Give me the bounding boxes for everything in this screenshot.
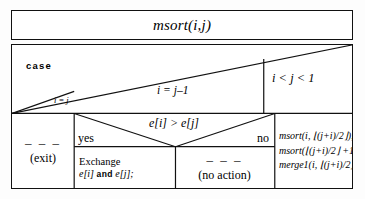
exchange-statement-line2: e[i] and e[j]; bbox=[79, 168, 175, 181]
page-title: msort(i,j) bbox=[153, 17, 211, 34]
exit-label: (exit) bbox=[30, 152, 56, 166]
structogram-body: case i = j i = j–1 i < j < 1 – – – (exit… bbox=[11, 44, 353, 189]
exchange-operand-right: e[j]; bbox=[115, 168, 133, 179]
no-action-dashes: – – – bbox=[207, 153, 243, 166]
branch-body-recursive-calls: msort(i, ⌊(j+i)/2⌋); msort(⌊(j+i)/2⌋ +1,… bbox=[274, 114, 352, 188]
code-line-merge1: merge1(i, ⌊(j+i)/2⌋, j); bbox=[279, 158, 352, 173]
decision-condition-label: e[i] > e[j] bbox=[74, 116, 274, 131]
exit-dashes: – – – bbox=[25, 136, 61, 149]
exchange-operand-left: e[i] bbox=[79, 168, 94, 179]
structogram-figure: msort(i,j) case i = j i = j–1 i bbox=[0, 0, 365, 199]
branch-body-no-action: – – – (no action) bbox=[175, 147, 274, 188]
code-line-msort-upper: msort(⌊(j+i)/2⌋ +1, j); bbox=[279, 144, 352, 159]
branch-body-exit: – – – (exit) bbox=[12, 114, 74, 188]
condition-label-i-lt-j-lt-1: i < j < 1 bbox=[272, 71, 315, 86]
branch-body-exchange: Exchange e[i] and e[j]; bbox=[74, 147, 175, 188]
and-keyword: and bbox=[97, 169, 113, 179]
code-line-msort-lower: msort(i, ⌊(j+i)/2⌋); bbox=[279, 129, 352, 144]
exchange-statement-line1: Exchange bbox=[79, 155, 175, 168]
condition-label-i-equals-j: i = j bbox=[54, 95, 69, 105]
condition-label-i-equals-j-minus-1: i = j–1 bbox=[157, 84, 188, 96]
decision-band: e[i] > e[j] yes no bbox=[74, 114, 274, 147]
procedure-title-box: msort(i,j) bbox=[11, 10, 353, 40]
case-keyword-label: case bbox=[26, 60, 52, 71]
decision-no-label: no bbox=[257, 131, 269, 146]
no-action-label: (no action) bbox=[198, 169, 250, 183]
decision-yes-label: yes bbox=[78, 131, 94, 146]
